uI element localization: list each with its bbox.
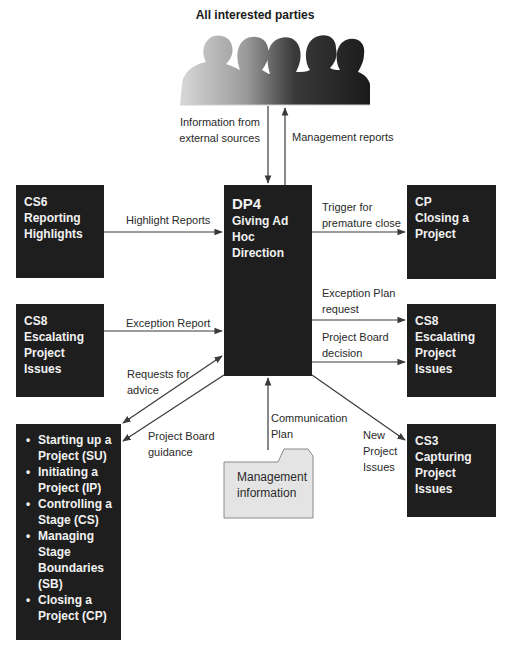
process-code: CS8 — [415, 313, 488, 329]
process-code: CS8 — [24, 313, 96, 329]
list-item-managing-boundaries: Managing Stage Boundaries (SB) — [24, 528, 115, 592]
process-list: Starting up a Project (SU) Initiating a … — [24, 432, 115, 624]
management-information-label: Management information — [237, 469, 307, 501]
process-box-cs6[interactable]: CS6 Reporting Highlights — [16, 185, 104, 278]
label-highlight-reports: Highlight Reports — [126, 212, 210, 228]
label-exception-report: Exception Report — [126, 315, 210, 331]
process-box-cs8-right[interactable]: CS8 Escalating Project Issues — [407, 304, 496, 397]
process-code: CS6 — [24, 194, 96, 210]
label-board-guidance: Project Board guidance — [148, 428, 215, 460]
process-code: CS3 — [415, 433, 488, 449]
label-board-decision: Project Board decision — [322, 329, 389, 361]
label-requests-advice: Requests for advice — [127, 366, 189, 398]
process-code: CP — [415, 194, 488, 210]
label-trigger-close: Trigger for premature close — [322, 199, 401, 231]
process-list-box[interactable]: Starting up a Project (SU) Initiating a … — [16, 424, 121, 640]
label-new-issues: New Project Issues — [363, 427, 397, 475]
label-comm-plan: Communication Plan — [271, 410, 347, 442]
process-code: DP4 — [232, 194, 304, 213]
label-exception-plan-request: Exception Plan request — [322, 285, 395, 317]
process-box-cp[interactable]: CP Closing a Project — [407, 185, 496, 279]
list-item-controlling: Controlling a Stage (CS) — [24, 496, 115, 528]
process-box-cs8-left[interactable]: CS8 Escalating Project Issues — [16, 304, 104, 397]
process-box-dp4[interactable]: DP4 Giving Ad Hoc Direction — [224, 185, 312, 376]
list-item-closing: Closing a Project (CP) — [24, 592, 115, 624]
list-item-initiating: Initiating a Project (IP) — [24, 464, 115, 496]
label-mgmt-reports: Management reports — [292, 129, 394, 145]
people-silhouette-icon — [180, 35, 370, 105]
list-item-starting-up: Starting up a Project (SU) — [24, 432, 115, 464]
label-info-external: Information from external sources — [160, 114, 260, 146]
process-box-cs3[interactable]: CS3 Capturing Project Issues — [407, 424, 496, 517]
